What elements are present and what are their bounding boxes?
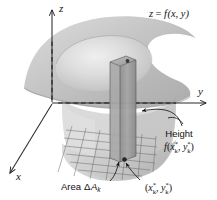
surface-equation-label: z=f(x, y) [148,8,190,20]
sample-dot-on-surface [126,59,130,63]
equation-args: (x, y) [167,8,189,20]
figure-root: z y x [0,0,217,200]
prism-front-face [120,60,136,162]
area-title: Area [61,181,82,192]
sample-point-label: (x*k, y*k) [145,181,172,195]
y-axis-label: y [197,85,203,97]
z-axis-label: z [58,2,64,14]
x-axis-line [10,104,52,173]
x-axis-label: x [15,170,21,182]
equation-z: z [148,8,153,19]
point-close: ) [169,182,172,194]
height-close: ) [191,141,194,153]
area-sub: k [97,186,101,193]
sample-dot-on-base [122,157,127,162]
area-label: AreaΔAk [61,181,101,193]
height-label: Height [165,128,193,139]
height-expression-label: f(x*k, y*k) [164,140,194,154]
calculus-diagram-canvas: z y x [0,0,217,200]
riemann-prism [110,56,136,162]
prism-left-face [110,62,120,162]
area-var: A [90,181,97,192]
equation-equals: = [156,8,162,19]
